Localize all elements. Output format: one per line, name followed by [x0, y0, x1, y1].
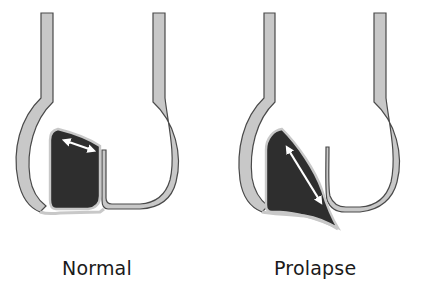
- prolapse-label: Prolapse: [274, 257, 356, 279]
- prolapse-vessel-wall-right: [326, 13, 400, 212]
- normal-leaflet: [50, 129, 100, 209]
- normal-panel: [16, 13, 178, 214]
- prolapse-panel: [239, 13, 400, 229]
- normal-vessel-wall: [16, 13, 53, 212]
- normal-label: Normal: [62, 257, 132, 279]
- normal-vessel-wall-right: [102, 13, 178, 209]
- valve-diagram: [0, 0, 422, 299]
